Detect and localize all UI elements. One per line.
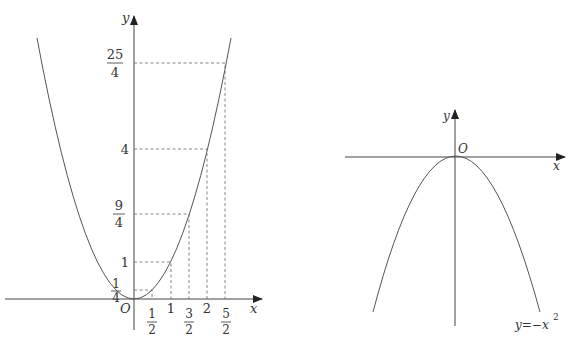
x-tick-3-2: 3 2 bbox=[184, 307, 194, 337]
x-tick-5-2: 5 2 bbox=[221, 307, 231, 337]
svg-text:2: 2 bbox=[553, 312, 559, 322]
guide-lines bbox=[134, 63, 225, 299]
svg-text:1: 1 bbox=[148, 307, 156, 321]
origin-label: O bbox=[120, 301, 131, 316]
svg-text:y=−x: y=−x bbox=[514, 318, 549, 332]
svg-text:4: 4 bbox=[112, 291, 120, 305]
svg-text:9: 9 bbox=[115, 198, 123, 213]
left-graph: y x O 25 4 4 9 4 1 1 4 1 2 1 3 bbox=[5, 10, 262, 337]
parabola-down bbox=[373, 156, 540, 312]
y-tick-4: 4 bbox=[121, 142, 129, 157]
svg-text:2: 2 bbox=[185, 323, 193, 337]
curve-label: y=−x 2 bbox=[514, 312, 559, 332]
y-tick-9-4: 9 4 bbox=[113, 198, 125, 230]
x-axis-label: x bbox=[250, 301, 258, 316]
svg-text:2: 2 bbox=[222, 323, 230, 337]
svg-text:4: 4 bbox=[111, 65, 119, 80]
svg-text:3: 3 bbox=[185, 307, 193, 321]
x-tick-1: 1 bbox=[167, 301, 175, 316]
svg-text:4: 4 bbox=[115, 215, 123, 230]
origin-label: O bbox=[458, 142, 468, 156]
svg-text:1: 1 bbox=[112, 277, 120, 291]
y-tick-1-4: 1 4 bbox=[111, 277, 121, 305]
y-axis-label: y bbox=[442, 109, 450, 123]
figure-canvas: y x O 25 4 4 9 4 1 1 4 1 2 1 3 bbox=[0, 0, 575, 353]
x-tick-1-2: 1 2 bbox=[147, 307, 157, 337]
y-tick-1: 1 bbox=[121, 255, 129, 270]
svg-text:25: 25 bbox=[107, 47, 124, 62]
y-axis-label: y bbox=[121, 10, 130, 25]
right-graph: y x O y=−x 2 bbox=[345, 109, 565, 332]
svg-text:5: 5 bbox=[222, 307, 230, 321]
x-axis-label: x bbox=[553, 159, 560, 173]
y-tick-25-4: 25 4 bbox=[107, 47, 124, 80]
x-tick-2: 2 bbox=[203, 301, 211, 316]
svg-text:2: 2 bbox=[148, 323, 156, 337]
